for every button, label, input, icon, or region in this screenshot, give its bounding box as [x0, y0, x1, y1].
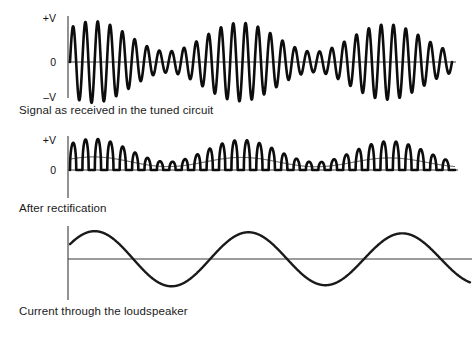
panel-received-signal: +V 0 –V Signal as received in the tuned …	[0, 0, 475, 125]
caption-loudspeaker-current: Current through the loudspeaker	[19, 305, 188, 317]
panel-after-rectification: +V 0 After rectification	[0, 128, 475, 220]
axis-label-positive-v: +V	[43, 134, 56, 146]
rectified-signal-plot: +V 0	[0, 128, 475, 200]
am-demodulation-figure: +V 0 –V Signal as received in the tuned …	[0, 0, 475, 345]
caption-after-rectification: After rectification	[19, 202, 107, 214]
axis-label-positive-v: +V	[43, 12, 56, 24]
axis-label-negative-v: –V	[43, 91, 56, 103]
caption-received-signal: Signal as received in the tuned circuit	[19, 104, 213, 116]
panel-loudspeaker-current: Current through the loudspeaker	[0, 222, 475, 345]
axis-label-zero: 0	[50, 56, 56, 68]
loudspeaker-current-plot	[0, 222, 475, 307]
rectified-pulse-waveform	[70, 139, 455, 170]
received-signal-plot: +V 0 –V	[0, 0, 475, 105]
axis-label-zero: 0	[50, 164, 56, 176]
